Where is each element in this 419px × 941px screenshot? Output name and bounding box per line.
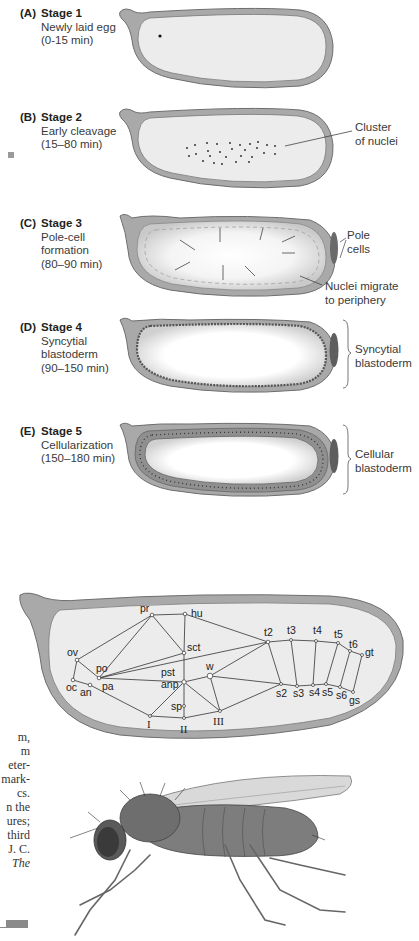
fm-label-s3: s3 — [293, 687, 304, 699]
fm-label-hu: hu — [191, 607, 203, 619]
stage-letter: (B) — [20, 111, 42, 125]
fm-label-gs: gs — [349, 694, 360, 706]
egg-stage-3 — [120, 214, 346, 296]
annotation-line: to periphery — [325, 294, 399, 308]
stage-title: Stage 4 — [41, 321, 109, 335]
stage-desc: Syncytial — [41, 335, 109, 349]
caption-line: ures; — [0, 814, 30, 828]
margin-marker — [8, 152, 14, 158]
fm-label-s2: s2 — [276, 687, 287, 699]
stage-desc: Early cleavage — [41, 125, 116, 139]
caption-line: n the — [0, 800, 30, 814]
caption-line: m, — [0, 730, 30, 744]
fm-label-po: po — [96, 662, 108, 674]
fm-label-sct: sct — [187, 641, 201, 653]
stage-time: (150–180 min) — [41, 452, 115, 466]
stage-letter: (A) — [20, 7, 42, 21]
annotation-syncytial-blastoderm: Syncytial blastoderm — [355, 343, 412, 370]
egg-stage-1 — [120, 8, 333, 87]
margin-rule — [0, 927, 8, 928]
annotation-nuclei-migrate: Nuclei migrate to periphery — [325, 280, 399, 307]
fm-label-s6: s6 — [336, 689, 347, 701]
caption-line: mark- — [0, 772, 30, 786]
fm-label-gt: gt — [365, 646, 374, 658]
fm-label-oc: oc — [66, 681, 77, 693]
fm-label-pa: pa — [102, 680, 114, 692]
fm-label-s4: s4 — [309, 686, 320, 698]
stage-time: (80–90 min) — [41, 258, 102, 272]
egg-stage-5 — [120, 423, 351, 496]
caption-line: The — [0, 856, 30, 870]
fm-label-s5: s5 — [322, 686, 333, 698]
pole-cells — [330, 232, 338, 264]
annotation-line: blastoderm — [355, 462, 412, 476]
fm-label-t3: t3 — [287, 624, 296, 636]
stage-desc: Pole-cell — [41, 231, 102, 245]
fm-label-w: w — [205, 660, 214, 672]
annotation-line: cells — [347, 243, 370, 257]
stage-letter: (D) — [20, 321, 42, 335]
caption-line: m — [0, 744, 30, 758]
stage-desc: Cellularization — [41, 439, 115, 453]
fm-label-I: I — [147, 718, 151, 730]
bracket-syncytial — [343, 320, 351, 388]
stage-desc: blastoderm — [41, 348, 109, 362]
stage-time: (0-15 min) — [41, 34, 116, 48]
egg-stage-4 — [120, 318, 351, 392]
caption-line: eter- — [0, 758, 30, 772]
fm-label-an: an — [80, 686, 92, 698]
caption-line: J. C. — [0, 842, 30, 856]
fm-label-II: II — [180, 723, 188, 735]
fm-label-sp: sp — [171, 700, 182, 712]
annotation-line: Pole — [347, 229, 370, 243]
fm-label-t6: t6 — [349, 638, 358, 650]
caption-line: cs. — [0, 786, 30, 800]
fm-label-t5: t5 — [334, 628, 343, 640]
fm-label-t4: t4 — [313, 624, 322, 636]
annotation-line: Cellular — [355, 448, 412, 462]
stage-desc: Newly laid egg — [41, 21, 116, 35]
fm-label-pr: pr — [140, 602, 150, 614]
bracket-cellular — [343, 425, 351, 494]
fm-label-pst: pst — [161, 666, 175, 678]
fate-map: pr hu ov po sct pst anp w oc an pa sp t2… — [20, 593, 404, 738]
stage-desc: formation — [41, 244, 102, 258]
nucleus-dot — [158, 34, 161, 37]
stage-time: (90–150 min) — [41, 362, 109, 376]
egg-stage-2 — [120, 108, 352, 187]
stage-title: Stage 1 — [41, 7, 116, 21]
stage-letter: (E) — [20, 425, 42, 439]
annotation-line: Cluster — [355, 121, 398, 135]
annotation-cluster-of-nuclei: Cluster of nuclei — [355, 121, 398, 148]
stage-letter: (C) — [20, 217, 42, 231]
annotation-line: Syncytial — [355, 343, 412, 357]
caption-line: third — [0, 828, 30, 842]
fm-label-anp: anp — [161, 678, 179, 690]
margin-marker-bottom — [6, 920, 28, 928]
adult-fly-illustration — [70, 776, 352, 936]
fm-label-ov: ov — [67, 646, 79, 658]
annotation-line: blastoderm — [355, 357, 412, 371]
fm-label-III: III — [213, 715, 224, 727]
stage-time: (15–80 min) — [41, 138, 116, 152]
annotation-line: of nuclei — [355, 135, 398, 149]
stage-title: Stage 5 — [41, 425, 115, 439]
annotation-pole-cells: Pole cells — [347, 229, 370, 256]
annotation-cellular-blastoderm: Cellular blastoderm — [355, 448, 412, 475]
stage-title: Stage 3 — [41, 217, 102, 231]
fm-label-t2: t2 — [264, 626, 273, 638]
annotation-line: Nuclei migrate — [325, 280, 399, 294]
stage-title: Stage 2 — [41, 111, 116, 125]
margin-caption-fragment: m, m eter- mark- cs. n the ures; third J… — [0, 730, 30, 870]
